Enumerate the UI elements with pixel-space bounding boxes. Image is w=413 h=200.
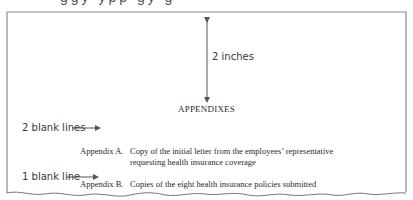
page-frame <box>0 0 413 200</box>
appendix-b-line-1: Copies of the eight health insurance pol… <box>130 179 316 189</box>
appendix-a-label: Appendix A. <box>80 146 123 156</box>
one-blank-line-label: 1 blank line <box>22 171 80 182</box>
torn-bottom-edge <box>7 192 406 196</box>
dimension-label: 2 inches <box>212 51 254 62</box>
appendix-a-line-1: Copy of the initial letter from the empl… <box>130 146 333 156</box>
appendixes-heading: APPENDIXES <box>0 104 413 114</box>
appendix-b-label: Appendix B. <box>80 179 123 189</box>
two-blank-lines-label: 2 blank lines <box>22 122 85 133</box>
appendix-a-line-2: requesting health insurance coverage <box>130 157 256 167</box>
